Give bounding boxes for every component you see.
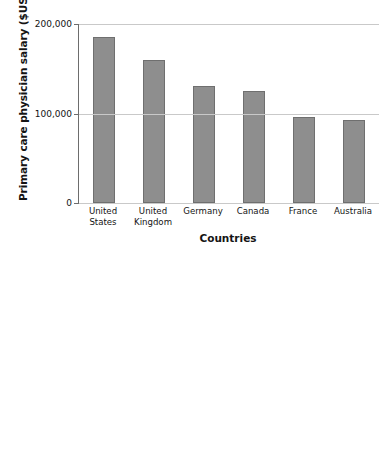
bar xyxy=(143,60,165,203)
x-axis-category-label: France xyxy=(289,206,318,217)
x-axis-category-label: UnitedKingdom xyxy=(134,206,172,227)
chart-orthopedic: Orthopedic physician salary ($US) 100,00… xyxy=(0,270,382,476)
gridline xyxy=(79,24,379,25)
x-axis-title-countries: Countries xyxy=(78,232,378,244)
bar xyxy=(343,120,365,203)
x-axis-category-label: Canada xyxy=(237,206,270,217)
y-axis-tick-label: 0 xyxy=(66,198,72,208)
chart-primary-care: Primary care physician salary ($US) 0100… xyxy=(0,0,382,256)
y-axis-title-primary-care: Primary care physician salary ($US) xyxy=(17,0,29,201)
y-axis-tick xyxy=(74,114,79,115)
plot-area-primary-care: 0100,000200,000 xyxy=(78,24,379,204)
bar xyxy=(193,86,215,203)
y-axis-tick-label: 100,000 xyxy=(35,109,72,119)
gridline xyxy=(79,114,379,115)
bar xyxy=(93,37,115,203)
x-axis-category-label: Australia xyxy=(334,206,372,217)
y-axis-tick-label: 200,000 xyxy=(35,19,72,29)
figure-page: Primary care physician salary ($US) 0100… xyxy=(0,0,382,476)
x-axis-category-label: Germany xyxy=(183,206,223,217)
y-axis-tick xyxy=(74,24,79,25)
gridline xyxy=(79,203,379,204)
bar xyxy=(293,117,315,203)
x-axis-category-label: UnitedStates xyxy=(89,206,117,227)
bar xyxy=(243,91,265,203)
y-axis-tick xyxy=(74,203,79,204)
